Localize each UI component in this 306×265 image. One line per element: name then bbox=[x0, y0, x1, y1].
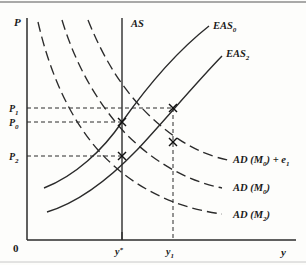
output-tick-y1-sub: 1 bbox=[170, 252, 174, 260]
curve-label-ad-m0-prefix: AD (M bbox=[232, 182, 264, 194]
curve-label-eas2-base: EAS bbox=[225, 48, 246, 59]
economics-ad-as-diagram: P y 0 P1 P0 P2 y* y1 AS EAS0 EAS2 AD (M0… bbox=[0, 0, 306, 265]
curve-label-ad-m0-e1: AD (M0) + e1 bbox=[232, 154, 289, 168]
curve-label-eas0-sub: 0 bbox=[233, 26, 237, 34]
curve-label-eas2: EAS2 bbox=[225, 48, 250, 62]
price-tick-p2: P2 bbox=[9, 151, 19, 165]
price-tick-p1: P1 bbox=[9, 103, 19, 117]
curve-label-eas2-sub: 2 bbox=[245, 54, 250, 62]
curve-label-ad-m0-e1-suffix-sub: 1 bbox=[286, 160, 290, 168]
price-tick-p2-sub: 2 bbox=[14, 157, 19, 165]
curve-label-ad-m2-suffix: ) bbox=[266, 209, 271, 221]
curve-label-ad-m0-e1-suffix: ) + e bbox=[266, 154, 287, 166]
curve-label-eas0: EAS0 bbox=[212, 20, 237, 34]
curve-label-as-base: AS bbox=[130, 18, 144, 29]
curve-label-ad-m0-suffix: ) bbox=[266, 182, 271, 194]
output-tick-ystar: y* bbox=[114, 246, 123, 257]
price-tick-p0: P0 bbox=[9, 117, 19, 131]
curve-label-as: AS bbox=[130, 18, 144, 29]
curve-label-ad-m2-prefix: AD (M bbox=[232, 209, 264, 221]
y-axis-label: P bbox=[14, 16, 21, 28]
price-tick-p1-sub: 1 bbox=[15, 109, 19, 117]
x-axis-label: y bbox=[279, 246, 286, 258]
output-tick-ystar-sub: * bbox=[119, 246, 123, 254]
curve-label-ad-m0: AD (M0) bbox=[232, 182, 270, 196]
curve-label-ad-m0-e1-prefix: AD (M bbox=[232, 154, 264, 166]
output-tick-y1: y1 bbox=[165, 246, 174, 260]
curve-label-ad-m2: AD (M2) bbox=[232, 209, 270, 223]
curve-ad-m2 bbox=[38, 22, 222, 214]
origin-label: 0 bbox=[13, 242, 19, 254]
curve-eas2 bbox=[47, 56, 222, 212]
price-tick-p0-sub: 0 bbox=[15, 123, 19, 131]
curve-label-eas0-base: EAS bbox=[212, 20, 233, 31]
diagram-canvas: P y 0 P1 P0 P2 y* y1 AS EAS0 EAS2 AD (M0… bbox=[0, 0, 306, 265]
